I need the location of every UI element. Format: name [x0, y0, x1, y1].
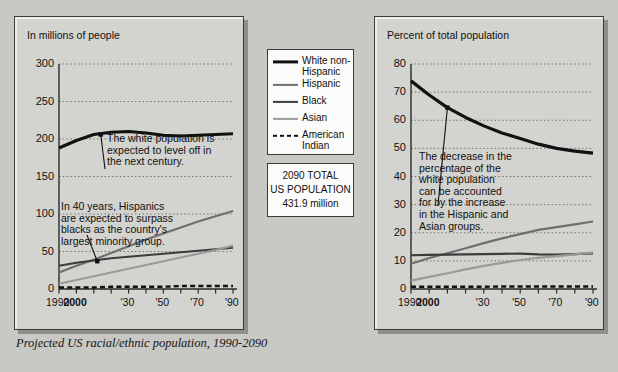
- y-axis-tick-label: 50: [380, 141, 406, 153]
- legend-label: American Indian: [302, 130, 353, 151]
- legend-swatch-icon: [273, 113, 298, 124]
- legend-swatch-icon: [273, 130, 298, 141]
- legend-item-white-non-hispanic: White non-Hispanic: [273, 56, 353, 77]
- chart-annotation-text: The white population is expected to leve…: [107, 133, 237, 168]
- x-axis-tick-label: '50: [512, 296, 526, 308]
- y-axis-tick-label: 30: [380, 198, 406, 210]
- x-axis-tick-label: '70: [549, 296, 563, 308]
- x-axis-tick-label: '30: [121, 296, 135, 308]
- total-label-line2: US POPULATION: [270, 183, 350, 197]
- series-line-asian: [59, 246, 233, 284]
- y-axis-tick-label: 200: [28, 132, 54, 144]
- axis-lines: [59, 64, 237, 294]
- total-population-box: 2090 TOTAL US POPULATION 431.9 million: [267, 163, 354, 217]
- y-axis-tick-label: 20: [380, 226, 406, 238]
- legend-item-american-indian: American Indian: [273, 130, 353, 151]
- y-axis-tick-label: 250: [28, 95, 54, 107]
- y-axis-tick-label: 0: [380, 282, 406, 294]
- legend-item-hispanic: Hispanic: [273, 79, 340, 90]
- x-axis-tick-label: '70: [190, 296, 204, 308]
- y-axis-tick-label: 40: [380, 170, 406, 182]
- x-axis-tick-label: '30: [476, 296, 490, 308]
- total-value: 431.9 million: [282, 197, 338, 211]
- x-axis-tick-label: '90: [225, 296, 239, 308]
- legend-swatch-icon: [273, 96, 298, 107]
- series-line-american-indian: [59, 286, 233, 288]
- x-axis-tick-label: '90: [585, 296, 599, 308]
- y-axis-tick-label: 70: [380, 85, 406, 97]
- x-axis-tick-label: '50: [155, 296, 169, 308]
- total-label-line1: 2090 TOTAL: [282, 169, 338, 183]
- legend-item-asian: Asian: [273, 113, 327, 124]
- y-axis-tick-label: 150: [28, 170, 54, 182]
- y-axis-tick-label: 80: [380, 57, 406, 69]
- legend-swatch-icon: [273, 79, 298, 90]
- y-axis-tick-label: 10: [380, 254, 406, 266]
- legend-label: White non-Hispanic: [302, 56, 353, 77]
- legend-label: Black: [302, 96, 326, 107]
- y-axis-tick-label: 300: [28, 57, 54, 69]
- chart-annotation-text: The decrease in the percentage of the wh…: [419, 151, 539, 232]
- x-axis-tick-label: 2000: [416, 296, 439, 308]
- y-axis-tick-label: 50: [28, 245, 54, 257]
- annotation-leader-line: [101, 135, 105, 170]
- legend-swatch-icon: [273, 56, 298, 67]
- figure-caption: Projected US racial/ethnic population, 1…: [16, 336, 267, 351]
- right-chart-panel: Percent of total population 010203040506…: [374, 16, 604, 330]
- chart-legend: White non-HispanicHispanicBlackAsianAmer…: [267, 49, 354, 155]
- infographic-canvas: In millions of people 050100150200250300…: [0, 0, 618, 372]
- legend-label: Hispanic: [302, 79, 340, 90]
- left-chart-panel: In millions of people 050100150200250300…: [14, 16, 244, 330]
- chart-annotation-text: In 40 years, Hispanics are expected to s…: [61, 201, 201, 247]
- y-axis-tick-label: 100: [28, 207, 54, 219]
- y-axis-tick-label: 60: [380, 113, 406, 125]
- x-axis-tick-label: 2000: [63, 296, 86, 308]
- legend-item-black: Black: [273, 96, 326, 107]
- legend-label: Asian: [302, 113, 327, 124]
- y-axis-tick-label: 0: [28, 282, 54, 294]
